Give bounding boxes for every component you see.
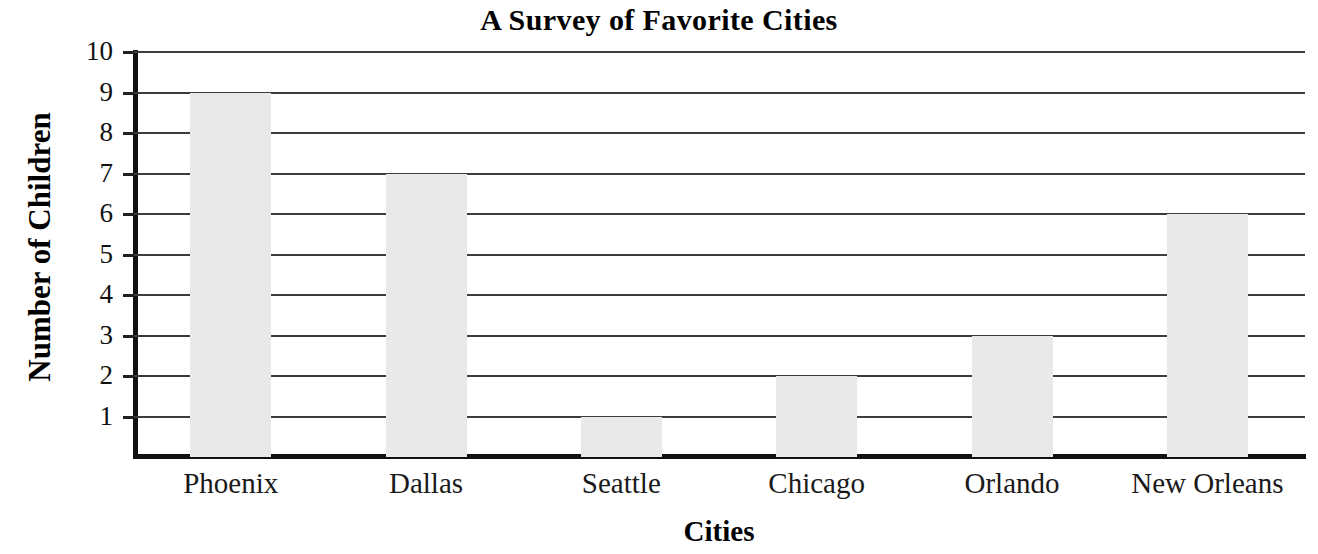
y-axis-tick-mark (123, 294, 134, 297)
x-axis-title: Cities (133, 514, 1305, 548)
plot-area (133, 52, 1305, 457)
gridline (133, 51, 1305, 53)
y-axis-tick-mark (123, 132, 134, 135)
gridline (133, 213, 1305, 215)
y-axis-tick-mark (123, 92, 134, 95)
y-axis-tick-label: 7 (53, 160, 113, 187)
y-axis-tick-label: 4 (53, 281, 113, 308)
chart-title: A Survey of Favorite Cities (0, 2, 1318, 38)
y-axis-tick-mark (123, 51, 134, 54)
bar (581, 417, 662, 458)
y-axis-tick-label: 6 (53, 200, 113, 227)
y-axis-tick-mark (123, 375, 134, 378)
y-axis-tick-label: 1 (53, 403, 113, 430)
bar (972, 336, 1053, 458)
y-axis-tick-label: 8 (53, 119, 113, 146)
y-axis-tick-label: 5 (53, 241, 113, 268)
gridline (133, 375, 1305, 377)
y-axis-tick-label: 9 (53, 79, 113, 106)
bar (386, 174, 467, 458)
y-axis-tick-mark (123, 416, 134, 419)
y-axis-tick-mark (123, 213, 134, 216)
gridline (133, 335, 1305, 337)
y-axis-tick-label: 3 (53, 322, 113, 349)
gridline (133, 173, 1305, 175)
y-axis-tick-mark (123, 173, 134, 176)
gridline (133, 416, 1305, 418)
y-axis-tick-mark (123, 335, 134, 338)
gridline (133, 294, 1305, 296)
bar (1167, 214, 1248, 457)
gridline (133, 254, 1305, 256)
y-axis-title: Number of Children (23, 47, 57, 447)
bar (776, 376, 857, 457)
y-axis-tick-mark (123, 254, 134, 257)
gridline (133, 92, 1305, 94)
bar (190, 93, 271, 458)
bar-chart: A Survey of Favorite Cities Number of Ch… (0, 0, 1318, 554)
x-axis-tick-label: New Orleans (1057, 466, 1318, 500)
y-axis-tick-label: 2 (53, 362, 113, 389)
y-axis-tick-label: 10 (53, 38, 113, 65)
gridline (133, 132, 1305, 134)
